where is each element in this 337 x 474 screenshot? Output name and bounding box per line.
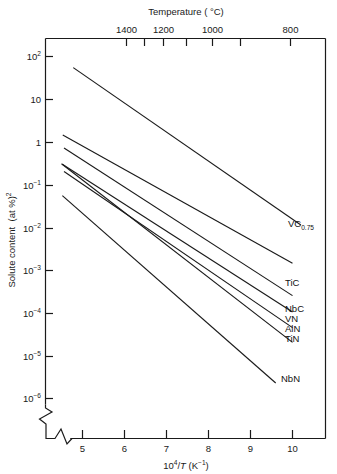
y-tick-label-1e2: 102: [27, 50, 42, 62]
x-axis-ticks: [83, 430, 293, 439]
figure-root: 1400 1200 1000 800 Temperature ( °C) 102…: [0, 0, 337, 474]
top-axis-tick-labels: 1400 1200 1000 800: [116, 24, 299, 35]
y-axis-tick-labels: 102 10 1 10−1 10−2 10−3 10−4 10−5 10−6: [23, 50, 41, 404]
series-layer: [62, 68, 301, 383]
x-axis-title-num: 10: [163, 460, 174, 471]
chart-svg: 1400 1200 1000 800 Temperature ( °C) 102…: [0, 0, 337, 474]
y-axis-title-unit: (at %): [6, 196, 17, 221]
top-axis-ticks: [127, 39, 291, 47]
top-tick-label-800: 800: [283, 24, 299, 35]
x-axis-tick-labels: 5 6 7 8 9 10: [80, 443, 298, 454]
y-axis-title: Solute content (at %)2: [5, 192, 17, 287]
y-axis-title-exp: 2: [5, 192, 12, 196]
x-tick-label-8: 8: [206, 443, 211, 454]
series-label-tic: TiC: [285, 277, 300, 288]
series-line-nbc: [64, 148, 292, 296]
series-line-tic: [63, 135, 293, 263]
y-tick-label-1e-5: 10−5: [23, 350, 41, 362]
x-axis-break-zigzag: [46, 429, 72, 444]
y-tick-label-1e-2: 10−2: [23, 222, 41, 234]
x-tick-label-10: 10: [287, 443, 298, 454]
y-tick-label-1e-6: 10−6: [23, 392, 41, 404]
top-tick-label-1200: 1200: [153, 24, 174, 35]
series-label-nbn: NbN: [281, 373, 300, 384]
series-line-tin: [62, 164, 293, 343]
x-tick-label-6: 6: [122, 443, 127, 454]
x-axis-title: 104/T (K−1): [163, 459, 209, 471]
y-tick-label-1e-4: 10−4: [23, 307, 41, 319]
series-line-nbn: [62, 196, 275, 383]
y-tick-label-1e-1: 10−1: [23, 179, 41, 191]
series-label-tin: TiN: [285, 333, 300, 344]
x-tick-label-5: 5: [80, 443, 85, 454]
series-labels: VC0.75 TiC NbC VN AlN TiN NbN: [281, 218, 314, 384]
x-tick-label-7: 7: [164, 443, 169, 454]
top-tick-label-1000: 1000: [202, 24, 223, 35]
y-tick-label-1e0: 1: [36, 137, 41, 148]
y-axis-title-main: Solute content: [6, 226, 17, 287]
series-line-vn: [62, 164, 292, 312]
x-axis-title-unit-close: ): [206, 460, 209, 471]
axis-break-icon: [40, 405, 73, 445]
y-axis-break-zigzag: [40, 405, 53, 430]
top-axis-title: Temperature ( °C): [148, 6, 224, 17]
series-label-vc075: VC0.75: [288, 218, 314, 231]
x-tick-label-9: 9: [248, 443, 253, 454]
y-tick-label-1e-3: 10−3: [23, 264, 41, 276]
y-axis-ticks: [46, 57, 54, 399]
y-tick-label-1e1: 10: [30, 94, 41, 105]
top-tick-label-1400: 1400: [116, 24, 137, 35]
